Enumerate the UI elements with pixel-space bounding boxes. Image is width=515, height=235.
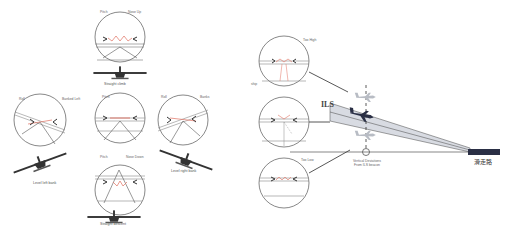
label-nose-up: Nose Up xyxy=(128,10,141,14)
attitude-indicator-nose-up xyxy=(95,12,145,62)
label-roll-left: Roll xyxy=(19,97,25,101)
runway-label: 滑走路 xyxy=(474,157,492,166)
label-too-high: Too High xyxy=(303,38,316,42)
caption-straight-climb: Straight climb xyxy=(104,82,126,86)
label-nose-down: Nose Down xyxy=(126,155,144,159)
attitude-indicator-nose-down xyxy=(95,165,145,215)
label-pitch-center: Pitch xyxy=(102,95,110,99)
label-pitch-bottom: Pitch xyxy=(100,155,108,159)
plane-front-left-bank-icon xyxy=(11,147,68,179)
ils-indicator-too-high xyxy=(259,36,309,86)
caption-level-left-bank: Level left bank xyxy=(33,181,56,185)
ils-indicator-on-path xyxy=(259,97,309,147)
ils-indicator-too-low xyxy=(259,158,309,208)
caption-level-right-bank: Level right bank xyxy=(171,169,196,173)
plane-too-high-icon xyxy=(355,93,376,102)
label-banked-left: Banked Left xyxy=(62,97,80,101)
label-banks: Banks xyxy=(200,95,209,99)
plane-too-low-icon xyxy=(355,131,376,140)
attitude-indicator-level xyxy=(95,93,145,143)
label-pitch-top: Pitch xyxy=(100,10,108,14)
beacon-caption-line2: From ILS beacon xyxy=(354,163,380,167)
caption-straight-descent: Straight descent xyxy=(100,222,126,226)
ils-label: ILS xyxy=(321,100,334,109)
attitude-indicator-banked-left xyxy=(14,94,66,146)
attitude-indicator-banked-right xyxy=(158,95,208,145)
label-on-path: ship xyxy=(251,82,257,86)
runway xyxy=(468,149,500,155)
diagram-canvas xyxy=(0,0,515,235)
label-too-low: Too Low xyxy=(301,158,314,162)
plane-front-climb-icon xyxy=(93,66,146,79)
label-roll-right: Roll xyxy=(161,95,167,99)
